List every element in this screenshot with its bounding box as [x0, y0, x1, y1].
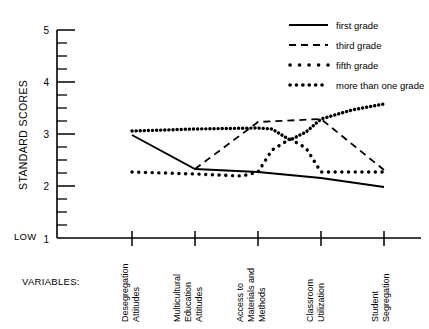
legend-label-third-grade: third grade [336, 40, 381, 51]
y-tick-label-3: 3 [43, 129, 49, 140]
legend-label-fifth-grade: fifth grade [336, 60, 378, 71]
chart-container: STANDARD SCORES LOW 5 4 3 2 1 [0, 0, 429, 329]
x-label-multicultural-education-attitudes-line2: Education [183, 282, 193, 322]
y-tick-label-2: 2 [43, 181, 49, 192]
y-tick-label-4: 4 [43, 77, 49, 88]
series-third-grade [195, 119, 384, 170]
x-label-classroom-utilization-line1: Classroom [305, 279, 315, 322]
x-axis-category-labels: Desegregation Attitudes Multicultural Ed… [120, 263, 391, 322]
x-label-student-segregation-line1: Student [370, 290, 380, 322]
legend-label-first-grade: first grade [336, 20, 378, 31]
line-chart-svg: STANDARD SCORES LOW 5 4 3 2 1 [0, 0, 429, 329]
series-first-grade [132, 135, 384, 187]
y-tick-label-1: 1 [43, 234, 49, 245]
x-label-access-to-materials-and-methods-line3: Methods [257, 287, 267, 322]
x-label-student-segregation-line2: Segregation [381, 273, 391, 322]
y-axis-title: STANDARD SCORES [17, 80, 29, 190]
legend-label-more-than-one-grade: more than one grade [336, 80, 424, 91]
y-axis-low-label: LOW [14, 231, 37, 242]
x-label-classroom-utilization-line2: Utilization [316, 283, 326, 322]
chart-legend: first grade third grade fifth grade more… [289, 20, 424, 91]
x-label-multicultural-education-attitudes-line1: Multicultural [172, 274, 182, 322]
x-label-desegregation-attitudes-line1: Desegregation [120, 263, 130, 322]
x-label-desegregation-attitudes-line2: Attitudes [131, 286, 141, 322]
x-axis-title: VARIABLES: [22, 276, 80, 287]
y-tick-label-5: 5 [43, 25, 49, 36]
x-label-access-to-materials-and-methods-line2: Materials and [246, 268, 256, 322]
x-label-multicultural-education-attitudes-line3: Attitudes [194, 286, 204, 322]
series-fifth-grade [132, 139, 384, 176]
x-label-access-to-materials-and-methods-line1: Access to [235, 283, 245, 322]
